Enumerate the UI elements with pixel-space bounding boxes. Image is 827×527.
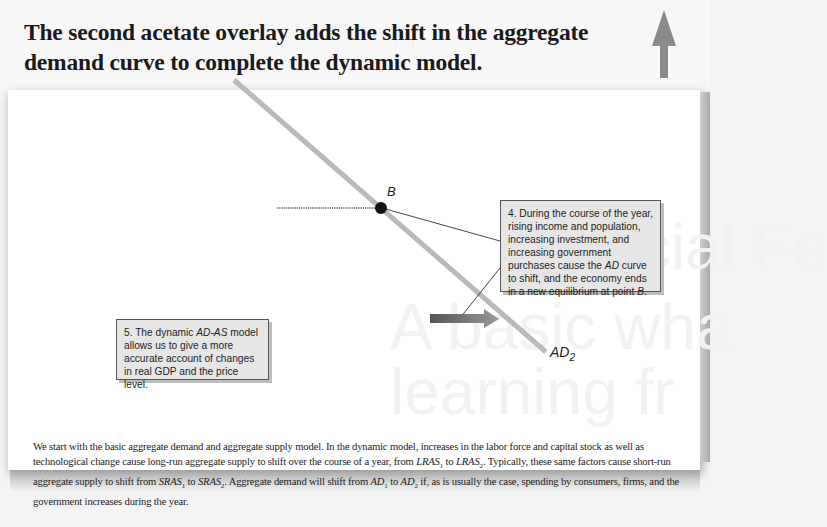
ad2-label-sub: 2 [569, 352, 575, 363]
caption-ad: AD [370, 476, 384, 487]
caption-lras: LRAS [416, 456, 440, 467]
caption-lras: LRAS [456, 456, 480, 467]
caption-sras: SRAS [159, 476, 182, 487]
caption-ad: AD [401, 476, 415, 487]
callout4-text-c: . [644, 286, 647, 297]
callout4-em-ad: AD [605, 260, 619, 271]
callout4-em-b: B [637, 286, 644, 297]
callout-step-5: 5. The dynamic AD-AS model allows us to … [116, 319, 269, 380]
callout5-text-a: 5. The dynamic [124, 327, 196, 338]
callout4-leader-bottom [460, 268, 500, 318]
callout-step-4: 4. During the course of the year, rising… [500, 200, 661, 292]
equilibrium-point-b [375, 202, 387, 214]
caption-part: to [388, 476, 401, 487]
caption-part: to [443, 456, 456, 467]
ad2-label-main: AD [550, 344, 569, 360]
caption-part: to [185, 476, 198, 487]
point-b-label: B [387, 184, 396, 199]
caption-sras: SRAS [198, 476, 221, 487]
up-arrow-icon [652, 10, 676, 78]
caption-part: . Aggregate demand will shift from [224, 476, 370, 487]
figure-caption: We start with the basic aggregate demand… [33, 439, 693, 509]
callout5-em: AD-AS [196, 327, 227, 338]
ad2-label: AD2 [550, 344, 575, 363]
